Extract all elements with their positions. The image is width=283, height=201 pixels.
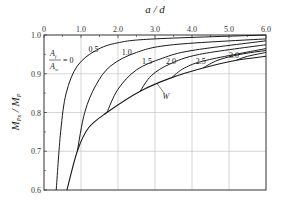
curve-label: 2.0 [166,57,176,66]
svg-text:Af: Af [49,49,57,59]
x-tick-label: 4.0 [187,25,197,34]
curve-label: 2.5 [196,57,206,66]
curve-label: 3.0 [229,51,239,60]
chart: 01.02.03.04.05.06.00.60.70.80.91.0 0.51.… [0,0,283,201]
y-axis-label: MPx / MP [9,93,22,131]
y-tick-label: 0.6 [31,186,41,195]
y-tick-label: 1.0 [31,31,41,40]
x-tick-label: 1.0 [76,25,86,34]
svg-text:= 0: = 0 [63,56,74,65]
y-tick-label: 0.7 [31,147,41,156]
svg-text:MPx / MP: MPx / MP [9,93,22,131]
curve-label-w: W [162,92,170,101]
svg-text:Aw: Aw [49,62,59,72]
x-tick-label: 6.0 [261,25,271,34]
y-tick-label: 0.8 [31,109,41,118]
x-tick-label: 5.0 [224,25,234,34]
x-tick-label: 0 [42,25,46,34]
curve-label: 0.5 [88,45,98,54]
x-axis-label: a / d [145,3,165,15]
x-tick-label: 3.0 [150,25,160,34]
curve-W [67,56,266,190]
x-tick-label: 2.0 [113,25,123,34]
parameter-label: Af Aw = 0 [49,49,74,72]
y-tick-label: 0.9 [31,70,41,79]
curve-labels: 0.51.01.52.02.53.0W [88,45,239,101]
curve-label: 1.0 [122,48,132,57]
curve-label: 1.5 [142,57,152,66]
